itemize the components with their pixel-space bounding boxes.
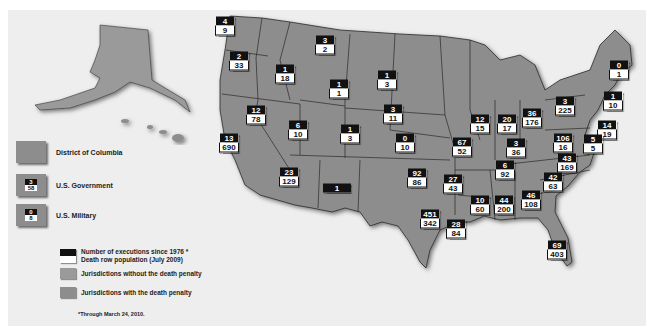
us-government-swatch: 358 — [16, 174, 46, 196]
us-gov-death-row: 58 — [25, 185, 37, 191]
executions-count: 0 — [396, 134, 414, 143]
state-label-south-carolina: 4263 — [543, 173, 563, 192]
executions-count: 1 — [276, 65, 294, 74]
death-row-count: 5 — [583, 144, 603, 154]
legend-us-military: 08 U.S. Military — [16, 204, 96, 226]
executions-count: 14 — [598, 121, 616, 130]
state-label-south-dakota: 13 — [377, 71, 397, 90]
executions-count: 12 — [471, 115, 489, 124]
executions-count: 10 — [471, 196, 489, 205]
without-penalty-label: Jurisdictions without the death penalty — [81, 270, 202, 278]
state-label-virginia: 10616 — [553, 134, 573, 153]
death-row-count: 16 — [553, 143, 573, 153]
death-row-count: 1 — [329, 89, 349, 99]
death-row-count: 10 — [395, 143, 415, 153]
executions-count: 451 — [421, 210, 439, 219]
executions-count: 67 — [453, 138, 471, 147]
legend-dc: District of Columbia — [16, 141, 123, 163]
legend-without-penalty: Jurisdictions without the death penalty — [60, 268, 202, 279]
legend-dc-label: District of Columbia — [56, 149, 123, 156]
state-label-montana: 32 — [315, 36, 335, 55]
executions-count: 6 — [289, 121, 307, 130]
executions-count: 1 — [330, 80, 348, 89]
state-label-colorado: 13 — [340, 125, 360, 144]
legend-us-government-label: U.S. Government — [56, 182, 113, 189]
state-label-kansas: 010 — [395, 134, 415, 153]
death-row-count: 33 — [229, 61, 249, 71]
executions-count: 43 — [558, 154, 576, 163]
hawaii-shape — [121, 119, 184, 142]
state-label-arkansas: 2743 — [443, 175, 463, 194]
death-row-count: 36 — [506, 148, 526, 158]
state-label-kentucky: 336 — [506, 139, 526, 158]
executions-count: 23 — [280, 168, 298, 177]
state-label-nebraska: 311 — [383, 105, 403, 124]
executions-count: 0 — [610, 61, 628, 70]
state-label-oklahoma: 9286 — [407, 169, 427, 188]
executions-count: 36 — [523, 109, 541, 118]
executions-count: 1 — [604, 92, 622, 101]
death-row-count: 342 — [420, 219, 440, 229]
death-row-count: 403 — [547, 250, 567, 260]
state-label-florida: 69403 — [547, 241, 567, 260]
state-label-washington: 49 — [215, 17, 235, 36]
death-row-count: 86 — [407, 178, 427, 188]
death-row-count: 10 — [288, 130, 308, 140]
state-label-missouri: 6752 — [452, 138, 472, 157]
legend-with-penalty: Jurisdictions with the death penalty — [60, 287, 192, 298]
death-row-count: 200 — [494, 205, 514, 215]
state-label-wyoming: 11 — [329, 80, 349, 99]
executions-count: 1 — [341, 125, 359, 134]
death-row-count: 3 — [377, 80, 397, 90]
footnote: *Through March 24, 2010. — [78, 311, 145, 317]
state-label-louisiana: 2884 — [446, 220, 466, 239]
state-label-utah: 610 — [288, 121, 308, 140]
death-row-count: 63 — [543, 182, 563, 192]
executions-count: 69 — [548, 241, 566, 250]
key-death-row-label: Death row population (July 2009) — [81, 256, 188, 264]
death-row-count: 11 — [383, 114, 403, 124]
executions-count: 44 — [495, 196, 513, 205]
death-row-count: 2 — [315, 45, 335, 55]
executions-count: 1 — [378, 71, 396, 80]
executions-count: 28 — [447, 220, 465, 229]
death-row-count: 129 — [279, 177, 299, 187]
state-label-idaho: 118 — [275, 65, 295, 84]
death-row-count: 10 — [603, 101, 623, 111]
key-swatch — [60, 249, 76, 263]
state-label-ohio: 36176 — [522, 109, 542, 128]
legend-us-military-label: U.S. Military — [56, 212, 96, 219]
executions-count: 6 — [496, 161, 514, 170]
executions-count: 27 — [444, 175, 462, 184]
executions-count: 20 — [498, 115, 516, 124]
us-mil-death-row: 8 — [25, 215, 37, 221]
executions-count: 4 — [216, 17, 234, 26]
state-label-north-carolina: 43169 — [557, 154, 577, 173]
executions-count: 5 — [584, 135, 602, 144]
state-label-arizona: 23129 — [279, 168, 299, 187]
death-row-count: 17 — [497, 124, 517, 134]
death-row-count: 60 — [470, 205, 490, 215]
executions-count: 13 — [220, 134, 238, 143]
death-row-count: 176 — [522, 118, 542, 128]
state-label-georgia: 46108 — [521, 191, 541, 210]
executions-count: 3 — [316, 36, 334, 45]
death-row-count: 78 — [246, 115, 266, 125]
executions-count: 92 — [408, 169, 426, 178]
state-label-california: 13690 — [219, 134, 239, 153]
executions-count: 2 — [230, 52, 248, 61]
executions-count: 106 — [554, 134, 572, 143]
death-row-count: 92 — [495, 170, 515, 180]
executions-count: 46 — [522, 191, 540, 200]
state-label-new-hampshire: 01 — [609, 61, 629, 80]
state-label-pennsylvania: 3225 — [555, 97, 575, 116]
death-row-count: 169 — [557, 163, 577, 173]
death-row-count: 225 — [555, 106, 575, 116]
death-row-count: 9 — [215, 26, 235, 36]
state-label-nevada: 1278 — [246, 106, 266, 125]
death-row-count: 15 — [470, 124, 490, 134]
executions-count: 3 — [507, 139, 525, 148]
death-row-count: 1 — [609, 70, 629, 80]
state-label-indiana: 2017 — [497, 115, 517, 134]
state-label-maryland: 55 — [583, 135, 603, 154]
